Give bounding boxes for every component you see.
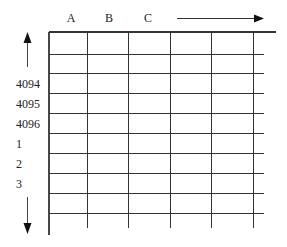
up-arrow-icon — [24, 32, 32, 67]
row-label-3: 3 — [16, 177, 22, 191]
row-label-2: 2 — [16, 157, 22, 171]
right-arrow-icon — [177, 15, 264, 23]
down-arrow-icon — [24, 197, 32, 234]
column-label-b: B — [105, 11, 113, 25]
row-label-1: 1 — [16, 137, 22, 151]
column-label-c: C — [144, 11, 152, 25]
row-label-4095: 4095 — [16, 97, 40, 111]
column-label-a: A — [67, 11, 76, 25]
row-label-4094: 4094 — [16, 77, 40, 91]
grid-horizontal-lines — [49, 32, 276, 214]
grid-diagram — [0, 0, 287, 247]
row-label-4096: 4096 — [16, 117, 40, 131]
